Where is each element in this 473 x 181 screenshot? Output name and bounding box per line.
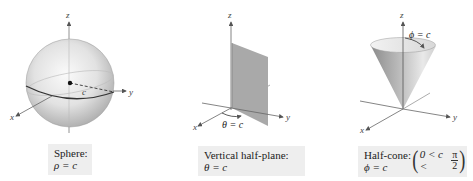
z-axis-label: z: [399, 10, 404, 20]
cone-surface: [371, 46, 436, 109]
right-paren: ): [460, 147, 466, 173]
y-axis-label: y: [285, 112, 290, 122]
sphere-caption: Sphere: ρ = c: [48, 144, 92, 175]
caption-equation: θ = c: [204, 161, 300, 173]
back-axis: [360, 101, 403, 109]
sphere-diagram: z y x c: [9, 10, 133, 133]
caption-title: Vertical half-plane:: [204, 149, 300, 161]
y-axis-label: y: [452, 112, 457, 122]
x-axis-label: x: [192, 122, 197, 132]
half-cone-caption: Half-cone: ϕ = c ( 0 < c < π 2 ): [358, 146, 467, 177]
y-axis: [403, 109, 450, 117]
x-axis-label: x: [359, 125, 364, 135]
theta-label: θ = c: [222, 119, 244, 130]
z-axis-label: z: [227, 10, 232, 20]
x-axis-label: x: [9, 112, 14, 122]
fraction-numerator: π: [451, 150, 458, 161]
pi-over-two: π 2: [451, 150, 458, 171]
caption-equation: ρ = c: [54, 159, 87, 171]
radius-label: c: [82, 87, 86, 97]
z-axis-label: z: [65, 10, 70, 20]
caption-title: Sphere:: [54, 147, 87, 159]
left-paren: (: [412, 147, 418, 173]
fraction-denominator: 2: [452, 161, 457, 171]
y-axis-label: y: [128, 87, 133, 97]
half-cone-diagram: z y x ϕ = c: [359, 10, 457, 135]
phi-label: ϕ = c: [409, 29, 431, 40]
x-axis: [366, 109, 403, 130]
cone-angle-condition: ( 0 < c < π 2 ): [411, 147, 467, 173]
half-plane-diagram: z y x θ = c: [192, 10, 290, 132]
condition-text: 0 < c <: [420, 148, 451, 172]
origin-point: [68, 81, 72, 85]
half-plane-caption: Vertical half-plane: θ = c: [198, 146, 305, 176]
back-axis: [202, 103, 231, 108]
theta-arc: [222, 113, 241, 117]
